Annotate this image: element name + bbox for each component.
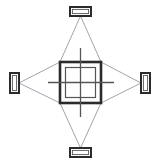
diagram-canvas [0, 0, 160, 166]
crosshair-alignment-lines [48, 48, 114, 117]
marker-bottom[interactable] [70, 148, 91, 157]
marker-left[interactable] [10, 73, 19, 93]
alignment-sight-diagram [0, 0, 160, 166]
sight-right-bottom [101, 83, 141, 103]
marker-left-aperture [12, 75, 16, 90]
sight-bottom-right [81, 103, 102, 148]
sight-right-top [101, 62, 141, 83]
marker-right[interactable] [141, 73, 150, 93]
marker-bottom-aperture [72, 150, 88, 154]
sight-bottom-left [60, 103, 81, 148]
marker-top-aperture [72, 9, 88, 13]
marker-top[interactable] [70, 7, 91, 16]
marker-right-aperture [143, 75, 147, 90]
sight-left-bottom [19, 83, 60, 103]
sight-top-right [81, 16, 102, 62]
sight-top-left [60, 16, 81, 62]
sight-left-top [19, 62, 60, 83]
